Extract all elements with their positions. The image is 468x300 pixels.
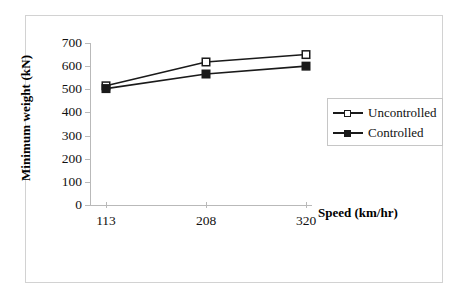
- data-point-filled-square: [202, 70, 210, 78]
- legend-label-uncontrolled: Uncontrolled: [368, 106, 437, 120]
- data-point-open-square: [302, 51, 310, 59]
- legend-label-controlled: Controlled: [368, 126, 424, 140]
- series-controlled: [102, 62, 310, 92]
- chart-figure: 700 600 500 400 300 200 100 0 113 208 32…: [0, 0, 468, 300]
- plot-area: 700 600 500 400 300 200 100 0 113 208 32…: [0, 0, 468, 300]
- filled-square-marker-icon: [333, 127, 363, 139]
- data-point-filled-square: [302, 62, 310, 69]
- series-layer: [0, 0, 468, 300]
- legend: Uncontrolled Controlled: [327, 98, 443, 146]
- data-point-open-square: [202, 58, 210, 66]
- open-square-marker-icon: [333, 107, 363, 119]
- data-point-filled-square: [102, 85, 110, 93]
- legend-item-controlled[interactable]: Controlled: [333, 123, 442, 143]
- legend-item-uncontrolled[interactable]: Uncontrolled: [333, 103, 442, 123]
